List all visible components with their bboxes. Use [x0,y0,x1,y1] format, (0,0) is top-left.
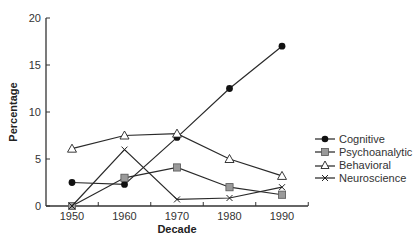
legend-item-neuroscience: Neuroscience [314,171,412,184]
legend-label: Psychoanalytic [339,146,412,158]
x-axis: 19501960197019801990 [46,202,308,222]
legend-label: Neuroscience [339,172,406,184]
y-axis: 05101520 [29,12,50,212]
x-tick-label: 1960 [112,210,136,222]
data-point [122,147,128,153]
x-tick-label: 1950 [60,210,84,222]
legend-label: Cognitive [339,133,385,145]
filled-circle-marker-icon [314,134,336,144]
legend-label: Behavioral [339,159,391,171]
chart-legend: Cognitive Psychoanalytic Behavioral Neur… [314,132,412,184]
data-point [173,164,180,171]
y-tick-label: 0 [35,200,41,212]
x-cross-marker-icon [314,173,336,183]
open-triangle-marker-icon [314,160,336,170]
series-psychoanalytic [68,164,285,210]
data-point [121,181,128,188]
series-neuroscience [69,147,285,209]
x-tick-label: 1970 [165,210,189,222]
data-point [226,184,233,191]
data-point [279,43,286,50]
x-axis-title: Decade [157,223,196,235]
data-point [225,155,234,163]
y-tick-label: 15 [29,59,41,71]
y-axis-title: Percentage [7,82,19,141]
y-tick-label: 10 [29,106,41,118]
line-chart: 05101520 19501960197019801990 Percentage… [0,0,420,242]
series-behavioral [68,129,287,179]
data-point [69,179,76,186]
x-tick-label: 1980 [217,210,241,222]
legend-item-cognitive: Cognitive [314,132,412,145]
x-tick-label: 1990 [270,210,294,222]
gray-square-marker-icon [314,147,336,157]
series-layer [68,43,287,210]
legend-item-behavioral: Behavioral [314,158,412,171]
data-point [121,174,128,181]
legend-item-psychoanalytic: Psychoanalytic [314,145,412,158]
data-point [278,191,285,198]
y-tick-label: 5 [35,153,41,165]
y-tick-label: 20 [29,12,41,24]
data-point [173,129,182,137]
data-point [226,85,233,92]
